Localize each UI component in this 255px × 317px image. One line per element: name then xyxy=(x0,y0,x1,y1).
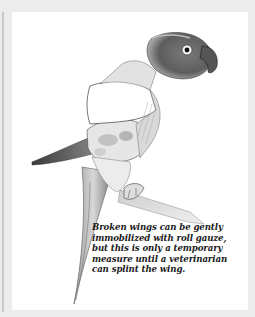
caption: Broken wings can be gently immobilized w… xyxy=(92,222,242,275)
caption-line: but this is only a temporary xyxy=(92,243,242,254)
caption-line: immobilized with roll gauze, xyxy=(92,233,242,244)
caption-line: Broken wings can be gently xyxy=(92,222,242,233)
caption-line: can splint the wing. xyxy=(92,264,242,275)
caption-line: measure until a veterinarian xyxy=(92,254,242,265)
frame-left-rule xyxy=(2,12,4,312)
